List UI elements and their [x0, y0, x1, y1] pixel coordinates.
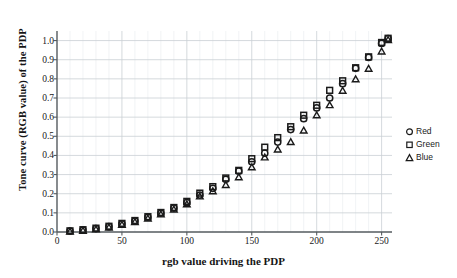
y-axis-tick-label: 0.8 [24, 74, 54, 84]
x-axis-title: rgb value driving the PDP [57, 255, 390, 267]
x-axis-tick-label: 50 [102, 236, 142, 246]
legend-marker-circle-icon [405, 127, 414, 136]
legend-marker-square-icon [405, 140, 414, 149]
x-axis-tick-labels: 050100150200250 [0, 236, 457, 252]
tone-curve-chart-figure: Tone curve (RGB value) of the PDP 0.00.1… [0, 0, 457, 278]
legend-item-green: Green [405, 138, 440, 151]
legend-label: Green [416, 138, 440, 151]
y-axis-tick-label: 0.6 [24, 112, 54, 122]
y-axis-tick-label: 0.5 [24, 131, 54, 141]
y-axis-tick-label: 0.7 [24, 93, 54, 103]
legend-label: Blue [416, 151, 433, 164]
legend-marker-triangle-icon [405, 153, 414, 162]
chart-legend: RedGreenBlue [405, 125, 440, 164]
y-axis-tick-label: 0.9 [24, 55, 54, 65]
y-axis-tick-label: 0.4 [24, 150, 54, 160]
x-axis-tick-label: 100 [167, 236, 207, 246]
x-axis-tick-label: 250 [362, 236, 402, 246]
y-axis-tick-label: 1.0 [24, 36, 54, 46]
x-axis-tick-label: 150 [232, 236, 272, 246]
x-axis-tick-label: 0 [37, 236, 77, 246]
legend-item-blue: Blue [405, 151, 440, 164]
plot-background [57, 31, 392, 232]
legend-item-red: Red [405, 125, 440, 138]
y-axis-tick-label: 0.1 [24, 208, 54, 218]
y-axis-tick-label: 0.2 [24, 189, 54, 199]
legend-label: Red [416, 125, 432, 138]
x-axis-tick-label: 200 [297, 236, 337, 246]
y-axis-tick-label: 0.3 [24, 170, 54, 180]
